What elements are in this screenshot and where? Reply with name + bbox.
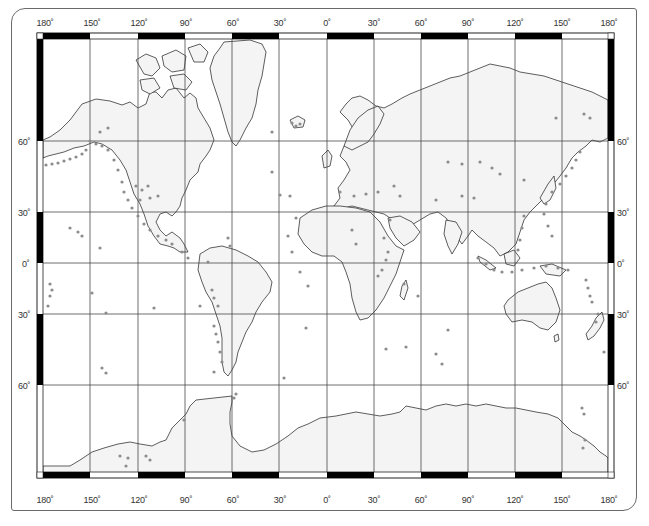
world-map [0,0,649,526]
